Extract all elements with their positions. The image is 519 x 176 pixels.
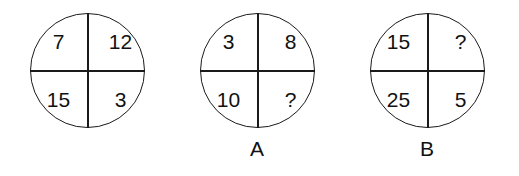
circle-2-label: A: [187, 138, 327, 159]
circle-2-quadrants: 3 8 10 ?: [200, 13, 315, 128]
circle-group-1: 7 12 15 3: [17, 0, 157, 176]
circle-3-top-left-value: 15: [370, 13, 431, 70]
circle-3-top-right-unknown: ?: [428, 13, 489, 70]
circle-1-bottom-left-value: 15: [30, 71, 91, 128]
circle-3-bottom-right-value: 5: [428, 71, 489, 128]
circle-3-bottom-left-value: 25: [370, 71, 431, 128]
circle-2-bottom-left-value: 10: [200, 71, 261, 128]
circle-1-quadrants: 7 12 15 3: [30, 13, 145, 128]
circle-1: 7 12 15 3: [30, 13, 145, 128]
circle-2-bottom-right-unknown: ?: [258, 71, 319, 128]
circle-2-top-right-value: 8: [258, 13, 319, 70]
circle-1-top-right-value: 12: [88, 13, 149, 70]
circle-2-top-left-value: 3: [200, 13, 261, 70]
circle-3-label: B: [357, 138, 497, 159]
circle-group-3: 15 ? 25 5 B: [357, 0, 497, 176]
circle-group-2: 3 8 10 ? A: [187, 0, 327, 176]
circle-1-bottom-right-value: 3: [88, 71, 149, 128]
circle-3: 15 ? 25 5: [370, 13, 485, 128]
circle-2: 3 8 10 ?: [200, 13, 315, 128]
circle-1-top-left-value: 7: [30, 13, 91, 70]
circle-3-quadrants: 15 ? 25 5: [370, 13, 485, 128]
quadrant-circle-puzzle-figure: 7 12 15 3 3 8 10 ? A 15: [0, 0, 519, 176]
